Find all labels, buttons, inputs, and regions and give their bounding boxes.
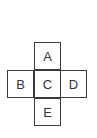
face-label: A [43,49,52,64]
face-a: A [34,42,61,70]
face-label: D [69,77,78,92]
face-c: C [34,70,61,98]
face-label: B [16,77,25,92]
face-label: C [43,77,52,92]
face-label: E [43,105,52,120]
face-d: D [60,70,87,98]
face-e: E [34,98,61,126]
face-b: B [7,70,34,98]
